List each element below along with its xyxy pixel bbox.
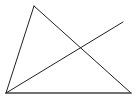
left-side [6,6,34,93]
cevian-line [6,22,123,93]
triangle-diagram [0,0,140,97]
right-side [34,6,131,93]
